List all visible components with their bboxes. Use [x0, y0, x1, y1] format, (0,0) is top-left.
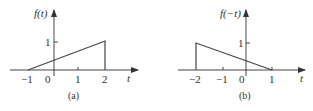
signal-f-t: [28, 41, 105, 70]
tick-label-b-1: 1: [269, 73, 275, 85]
tick-label-a-2: 2: [102, 73, 108, 85]
ylabel-b: f(−t): [220, 7, 241, 20]
signal-f-minus-t: [196, 43, 272, 70]
tick-label-a-1: 1: [75, 73, 81, 85]
ytick-label-a-1: 1: [45, 36, 51, 48]
caption-a: (a): [68, 90, 79, 102]
tick-label-b-0: 0: [239, 73, 245, 85]
tick-label-b-m2: −2: [189, 73, 201, 85]
xlabel-a: t: [127, 72, 131, 84]
tick-label-b-m1: −1: [216, 73, 228, 85]
tick-label-a-m1: −1: [21, 73, 33, 85]
xlabel-b: t: [300, 72, 304, 84]
ylabel-a: f(t): [34, 7, 48, 20]
caption-b: (b): [239, 90, 251, 102]
panel-a: f(t) t −1 0 1 2 1 (a): [10, 7, 138, 102]
signal-diagram: f(t) t −1 0 1 2 1 (a) f(−t) t −2 −1 0 1 …: [0, 0, 313, 111]
tick-label-a-0: 0: [45, 73, 51, 85]
ytick-label-b-1: 1: [238, 37, 244, 49]
panel-b: f(−t) t −2 −1 0 1 1 (b): [178, 7, 305, 102]
